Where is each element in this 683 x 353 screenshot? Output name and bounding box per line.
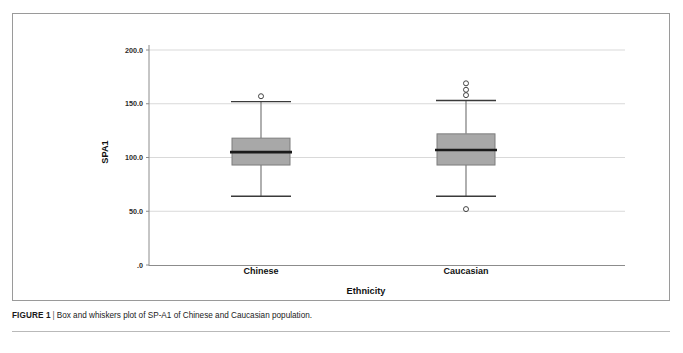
figure-root: .050.0100.0150.0200.0 Chinese Caucasian … [0,0,683,353]
caption-figure-label: FIGURE 1 [12,311,51,320]
figure-frame [12,13,670,301]
caption-body-text: Box and whiskers plot of SP-A1 of Chines… [57,311,312,320]
figure-caption: FIGURE 1|Box and whiskers plot of SP-A1 … [12,310,670,322]
caption-divider [12,331,670,332]
